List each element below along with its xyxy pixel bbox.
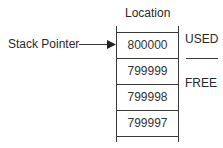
memory-cell: 800000 bbox=[117, 32, 178, 58]
used-free-separator bbox=[186, 58, 218, 59]
location-header: Location bbox=[125, 6, 170, 20]
used-region-label: USED bbox=[185, 32, 218, 46]
memory-cell: 799997 bbox=[117, 110, 178, 136]
stack-divider bbox=[116, 136, 179, 137]
free-region-label: FREE bbox=[185, 76, 217, 90]
stack-pointer-label: Stack Pointer bbox=[8, 37, 79, 51]
memory-cell: 799999 bbox=[117, 58, 178, 84]
pointer-arrow-line bbox=[79, 44, 109, 45]
memory-cell: 799998 bbox=[117, 84, 178, 110]
